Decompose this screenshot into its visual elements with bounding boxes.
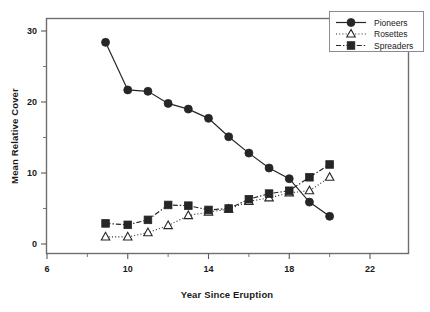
legend-label-pioneers: Pioneers xyxy=(374,18,408,28)
x-axis-ticks xyxy=(47,254,370,260)
y-axis-ticks xyxy=(41,31,47,244)
series-markers-pioneers xyxy=(102,38,334,220)
data-point-circle xyxy=(102,38,110,46)
data-point-square xyxy=(185,202,193,210)
y-tick-label: 10 xyxy=(27,168,37,178)
data-point-circle xyxy=(326,212,334,220)
data-point-square xyxy=(102,220,110,228)
data-point-triangle xyxy=(124,232,132,240)
series-line-spreaders xyxy=(106,164,330,224)
data-point-square xyxy=(225,205,233,213)
data-point-circle xyxy=(265,164,273,172)
data-point-square xyxy=(124,221,132,229)
data-point-circle xyxy=(124,86,132,94)
legend-label-rosettes: Rosettes xyxy=(374,29,408,39)
data-point-square xyxy=(245,195,253,203)
series-line-pioneers xyxy=(106,42,330,216)
data-point-circle xyxy=(184,105,192,113)
data-point-triangle xyxy=(164,221,172,229)
data-point-circle xyxy=(305,198,313,206)
chart-legend: PioneersRosettesSpreaders xyxy=(330,12,424,52)
data-point-square xyxy=(144,216,152,224)
series-markers-spreaders xyxy=(102,161,334,229)
data-point-circle xyxy=(245,149,253,157)
x-axis-label: Year Since Eruption xyxy=(181,289,274,300)
y-axis-tick-labels: 0102030 xyxy=(27,26,37,249)
x-tick-label: 6 xyxy=(44,264,49,274)
legend-label-spreaders: Spreaders xyxy=(374,41,413,51)
data-point-square xyxy=(205,206,213,214)
y-axis-label: Mean Relative Cover xyxy=(9,88,20,184)
y-tick-label: 20 xyxy=(27,97,37,107)
data-point-square xyxy=(306,173,314,181)
y-tick-label: 0 xyxy=(32,239,37,249)
x-axis-tick-labels: 610141822 xyxy=(44,264,375,274)
x-tick-label: 14 xyxy=(203,264,213,274)
data-series-layer xyxy=(101,38,334,240)
data-point-triangle xyxy=(325,173,333,181)
data-point-circle xyxy=(205,114,213,122)
data-point-circle xyxy=(285,175,293,183)
data-point-square xyxy=(347,42,355,50)
chart-figure: 0102030 610141822 Year Since Eruption Me… xyxy=(0,0,430,312)
y-tick-label: 30 xyxy=(27,26,37,36)
data-point-square xyxy=(326,161,334,169)
data-point-triangle xyxy=(101,232,109,240)
data-point-square xyxy=(164,201,172,209)
data-point-circle xyxy=(144,87,152,95)
x-tick-label: 22 xyxy=(365,264,375,274)
x-tick-label: 10 xyxy=(123,264,133,274)
line-chart: 0102030 610141822 Year Since Eruption Me… xyxy=(0,0,430,312)
data-point-square xyxy=(265,190,273,198)
data-point-circle xyxy=(164,99,172,107)
x-tick-label: 18 xyxy=(284,264,294,274)
data-point-triangle xyxy=(305,186,313,194)
series-markers-rosettes xyxy=(101,173,334,240)
data-point-circle xyxy=(347,19,355,27)
series-lines xyxy=(106,42,330,237)
data-point-circle xyxy=(225,133,233,141)
data-point-square xyxy=(285,187,293,195)
data-point-triangle xyxy=(144,228,152,236)
